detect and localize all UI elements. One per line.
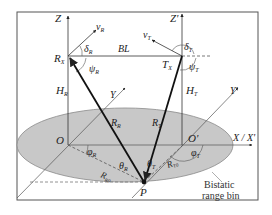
psi-t-label: ψT [189,61,199,73]
delta-t-label: δT [184,41,193,53]
target-point [142,180,147,185]
x-axis-label: X / X' [232,132,256,143]
bistatic-label-line1: Bistatic [204,179,235,190]
bistatic-label-line2: range bin [202,190,240,201]
tx-label: TX [162,58,172,71]
ht-label: HT [185,84,198,97]
p-label: P [139,186,147,198]
vr-label: vR [96,21,104,33]
delta-r-arc [80,46,82,56]
hr-label: HR [55,84,68,97]
bl-label: BL [118,43,130,54]
rx-label: RX [53,52,65,65]
bistatic-geometry-diagram: Z Z' vR vT δR δT BL RX TX ψR ψT HR HT Y … [0,0,272,215]
psi-r-label: ψR [89,63,99,75]
vt-label: vT [143,29,151,41]
y-left-label: Y [110,89,117,100]
velocity-transmitter [152,40,182,56]
origin-right-label: O' [188,132,199,144]
z-left-label: Z [55,12,62,24]
delta-r-label: δR [84,43,93,55]
y-right-label: Y' [230,85,239,96]
origin-left-label: O [56,134,64,146]
z-right-label: Z' [170,12,179,24]
